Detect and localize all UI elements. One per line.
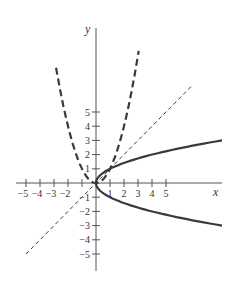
y-tick-label: 4	[85, 121, 90, 132]
y-tick-label: −2	[79, 206, 90, 217]
y-tick-label: 3	[85, 135, 90, 146]
x-tick-label: −2	[60, 188, 71, 199]
y-tick-label: 2	[85, 149, 90, 160]
curves	[26, 51, 222, 254]
x-tick-label: −4	[32, 188, 43, 199]
x-tick-label: 5	[164, 188, 169, 199]
x-tick-label: 2	[122, 188, 127, 199]
y-tick-label: 1	[85, 163, 90, 174]
x-tick-label: 4	[150, 188, 155, 199]
y-tick-label: 5	[85, 107, 90, 118]
y-axis-label: y	[84, 22, 91, 36]
x-axis-label: x	[212, 185, 219, 199]
y-tick-label: −1	[79, 192, 90, 203]
y-tick-label: −3	[79, 220, 90, 231]
x-tick-label: −5	[18, 188, 29, 199]
y-tick-label: −5	[79, 249, 90, 260]
y-tick-label: −4	[79, 234, 90, 245]
x-tick-label: 3	[136, 188, 141, 199]
chart: x y −5−4−3−212345−5−4−3−2−112345	[0, 0, 236, 283]
x-tick-label: −3	[46, 188, 57, 199]
